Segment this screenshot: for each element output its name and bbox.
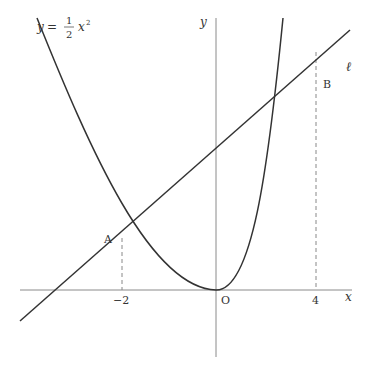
tick-label-neg2: −2 (113, 294, 129, 307)
curve-label-exp: 2 (86, 19, 90, 27)
curve-label-num: 1 (66, 15, 72, 26)
curve-label-lhs: y (36, 20, 44, 34)
point-a-label: A (103, 233, 113, 246)
curve-label-var: x (78, 20, 85, 34)
curve-label-eq: = (47, 20, 57, 34)
point-b-label: B (323, 78, 331, 91)
tick-label-4: 4 (312, 294, 319, 307)
origin-label: O (221, 294, 230, 307)
curve-label-den: 2 (66, 29, 72, 40)
parabola-curve (37, 18, 283, 290)
diagram-canvas: y = 1 2 x 2 y x ℓ B A O −2 4 (0, 0, 369, 377)
x-axis-label: x (345, 290, 352, 304)
line-label: ℓ (346, 59, 352, 74)
line-l (20, 30, 350, 321)
y-axis-label: y (199, 15, 207, 29)
